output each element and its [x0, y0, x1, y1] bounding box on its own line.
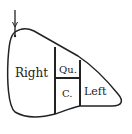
- label-caudate: C.: [62, 88, 72, 99]
- label-left: Left: [84, 85, 107, 98]
- label-right: Right: [15, 66, 48, 80]
- liver-lobes-diagram: Right Qu. C. Left: [0, 0, 132, 134]
- label-quadrate: Qu.: [59, 64, 77, 75]
